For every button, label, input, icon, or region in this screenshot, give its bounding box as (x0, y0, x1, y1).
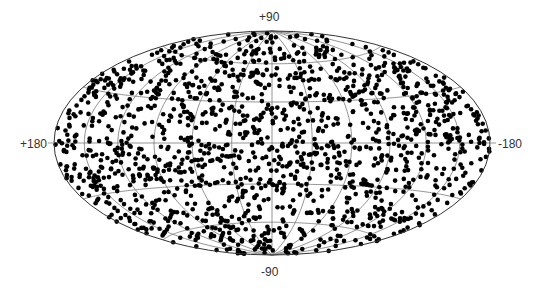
label-lon-plus-180: +180 (20, 138, 47, 150)
label-south-pole: -90 (261, 266, 278, 278)
label-lon-minus-180: -180 (498, 138, 522, 150)
all-sky-scatter-plot (0, 0, 540, 293)
label-north-pole: +90 (259, 11, 279, 23)
graticule (54, 31, 490, 255)
